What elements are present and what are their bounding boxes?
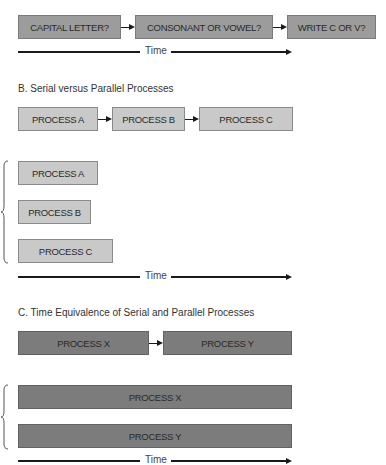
time-axis-left (18, 460, 140, 462)
capital-letter-box: CAPITAL LETTER? (18, 15, 121, 39)
arrow-line (185, 119, 193, 121)
time-label: Time (145, 45, 167, 56)
parallel-process-a-box: PROCESS A (18, 161, 98, 185)
section-c-title: C. Time Equivalence of Serial and Parall… (18, 307, 254, 318)
serial-process-c-box: PROCESS C (199, 107, 293, 131)
time-axis-right (171, 276, 287, 278)
time-axis-right (171, 51, 287, 53)
arrow-line (98, 119, 106, 121)
section-b-title: B. Serial versus Parallel Processes (18, 83, 174, 94)
parallel-process-b-box: PROCESS B (18, 200, 91, 224)
time-arrow-head-icon (286, 458, 292, 464)
parallel-process-x-box: PROCESS X (18, 385, 292, 409)
parallel-process-y-box: PROCESS Y (18, 424, 292, 448)
write-c-or-v-box: WRITE C OR V? (287, 15, 376, 39)
parallel-brace-icon (0, 384, 10, 450)
arrow-line (273, 27, 281, 29)
serial-process-a-box: PROCESS A (18, 107, 98, 131)
parallel-process-c-box: PROCESS C (18, 239, 113, 263)
arrow-line (149, 343, 157, 345)
time-arrow-head-icon (286, 274, 292, 280)
section-a-title: A. The Decision Task (18, 0, 112, 2)
serial-process-y-box: PROCESS Y (163, 331, 292, 355)
time-axis-left (18, 51, 140, 53)
time-arrow-head-icon (286, 49, 292, 55)
consonant-vowel-box: CONSONANT OR VOWEL? (135, 15, 273, 39)
serial-process-b-box: PROCESS B (112, 107, 185, 131)
time-axis-left (18, 276, 140, 278)
time-label: Time (145, 454, 167, 465)
time-axis-right (171, 460, 287, 462)
serial-process-x-box: PROCESS X (18, 331, 149, 355)
time-label: Time (145, 270, 167, 281)
parallel-brace-icon (0, 160, 10, 264)
arrow-line (121, 27, 129, 29)
